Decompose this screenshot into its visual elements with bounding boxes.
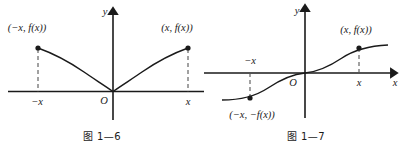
figure-pair-container: (−x, f(x)) (x, f(x)) −x x O y x 图 1—6: [0, 0, 408, 154]
point-label-lower: (−x, −f(x)): [229, 109, 275, 121]
curve-left-branch: [38, 48, 113, 92]
point-marker-upper: [356, 45, 361, 50]
figure-1-6-caption: 图 1—6: [0, 128, 204, 143]
figure-1-6-plot: (−x, f(x)) (x, f(x)) −x x O y x: [0, 0, 204, 128]
point-marker-left: [35, 45, 40, 50]
point-marker-right: [185, 45, 190, 50]
tick-label-positive-x: x: [185, 96, 191, 107]
y-axis-label: y: [102, 6, 108, 17]
point-marker-lower: [247, 95, 252, 100]
curve-right-branch: [113, 48, 188, 92]
figure-1-7: (x, f(x)) (−x, −f(x)) −x x O y x 图 1—7: [204, 0, 408, 154]
figure-1-6: (−x, f(x)) (x, f(x)) −x x O y x 图 1—6: [0, 0, 204, 154]
x-axis-label: x: [392, 77, 398, 88]
tick-label-negative-x: −x: [31, 96, 43, 107]
point-label-upper: (x, f(x)): [340, 24, 372, 36]
origin-label: O: [100, 95, 108, 106]
point-label-left: (−x, f(x)): [8, 22, 47, 34]
point-label-right: (x, f(x)): [161, 22, 193, 34]
origin-label: O: [289, 77, 297, 88]
y-axis-label: y: [294, 5, 300, 16]
figure-1-7-caption: 图 1—7: [204, 128, 408, 143]
tick-label-negative-x: −x: [244, 55, 256, 66]
tick-label-positive-x: x: [356, 77, 362, 88]
figure-1-7-plot: (x, f(x)) (−x, −f(x)) −x x O y x: [204, 0, 408, 128]
